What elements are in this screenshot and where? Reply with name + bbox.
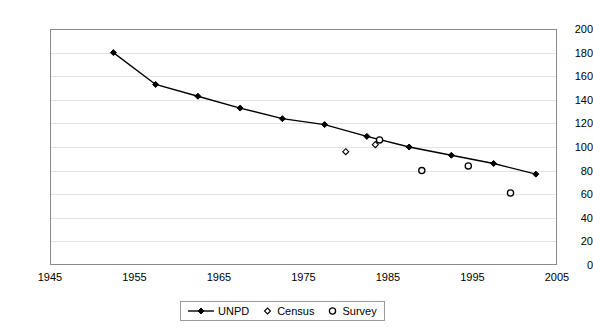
- legend-label: UNPD: [218, 306, 249, 317]
- data-point: [533, 171, 539, 177]
- legend-item-survey[interactable]: Survey: [327, 302, 376, 320]
- data-point: [237, 105, 243, 111]
- open-diamond-icon: [262, 305, 273, 317]
- data-point: [448, 152, 454, 158]
- data-point: [376, 137, 382, 143]
- legend-item-census[interactable]: Census: [262, 302, 314, 320]
- data-series-layer: [0, 0, 593, 331]
- series-line: [113, 53, 536, 175]
- data-point: [195, 93, 201, 99]
- series-census: [343, 142, 379, 155]
- legend-item-unpd[interactable]: UNPD: [188, 302, 249, 320]
- data-point: [419, 168, 425, 174]
- chart-legend: UNPDCensusSurvey: [180, 301, 385, 321]
- legend-label: Survey: [342, 306, 376, 317]
- data-point: [406, 144, 412, 150]
- data-point: [491, 161, 497, 167]
- data-point: [343, 149, 349, 155]
- data-point: [465, 163, 471, 169]
- data-point: [364, 133, 370, 139]
- open-circle-icon: [327, 305, 338, 317]
- data-point: [322, 122, 328, 128]
- legend-label: Census: [277, 306, 314, 317]
- chart-container: 020406080100120140160180200 194519551965…: [0, 0, 593, 331]
- data-point: [507, 190, 513, 196]
- series-unpd: [110, 50, 539, 178]
- data-point: [279, 116, 285, 122]
- line-filled-diamond-icon: [188, 305, 214, 317]
